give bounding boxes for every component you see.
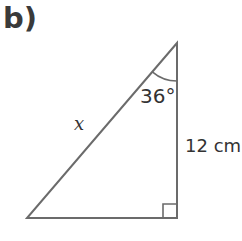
hypotenuse-label: x [74, 115, 84, 133]
angle-label: 36° [140, 86, 175, 106]
vertical-side-label: 12 cm [185, 137, 241, 155]
right-angle-marker-icon [163, 204, 177, 218]
right-triangle-diagram [0, 0, 242, 241]
triangle-outline [27, 43, 177, 218]
angle-arc-icon [152, 72, 177, 81]
